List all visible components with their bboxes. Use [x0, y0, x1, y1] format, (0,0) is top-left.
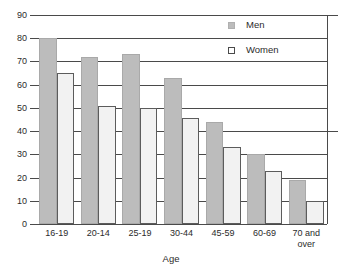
y-axis: 0102030405060708090 [0, 0, 36, 278]
bar-women-0 [57, 73, 75, 224]
x-axis-category-label: 30-44 [161, 228, 203, 239]
bar-men-4 [206, 122, 224, 224]
x-axis-category-label: 70 and over [285, 228, 327, 250]
bar-women-4 [223, 147, 241, 224]
x-axis-category-label: 25-19 [119, 228, 161, 239]
legend-label-men: Men [246, 20, 264, 30]
y-axis-tick-label: 50 [17, 103, 27, 112]
legend-swatch-women-icon [228, 47, 235, 54]
bar-women-2 [140, 108, 158, 224]
legend: Men Women [228, 18, 328, 68]
bar-men-3 [164, 78, 182, 224]
bar-women-5 [265, 171, 283, 224]
y-axis-tick-label: 10 [17, 196, 27, 205]
y-axis-tick-label: 60 [17, 80, 27, 89]
x-axis-category-label: 16-19 [36, 228, 78, 239]
legend-item-women: Women [228, 43, 328, 57]
bar-men-5 [247, 154, 265, 224]
y-axis-tick-label: 30 [17, 150, 27, 159]
bar-men-6 [289, 180, 307, 224]
legend-item-men: Men [228, 18, 328, 32]
legend-swatch-men-icon [228, 22, 235, 29]
x-axis-category-label: 20-14 [78, 228, 120, 239]
bar-men-2 [122, 54, 140, 224]
bar-men-0 [39, 38, 57, 224]
x-axis-line [36, 224, 327, 225]
bar-women-3 [182, 118, 200, 224]
x-axis-category-label: 60-69 [244, 228, 286, 239]
legend-label-women: Women [246, 45, 279, 55]
x-axis-title: Age [0, 253, 342, 264]
y-axis-tick-label: 20 [17, 173, 27, 182]
y-axis-tick-label: 80 [17, 34, 27, 43]
bar-chart: 0102030405060708090 16-1920-1425-1930-44… [0, 0, 342, 278]
y-axis-tick-label: 0 [22, 220, 27, 229]
y-axis-tick-label: 90 [17, 11, 27, 20]
bar-men-1 [81, 57, 99, 224]
bar-women-1 [98, 106, 116, 224]
x-axis-category-label: 45-59 [202, 228, 244, 239]
bar-women-6 [306, 201, 324, 224]
y-axis-tick-label: 70 [17, 57, 27, 66]
y-axis-tick-label: 40 [17, 127, 27, 136]
